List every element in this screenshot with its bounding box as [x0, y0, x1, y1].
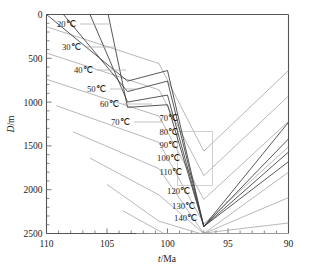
- y-axis-title: D/m: [6, 115, 16, 134]
- isotherm-label: 110℃: [159, 167, 182, 177]
- isotherm-label: 20℃: [57, 19, 76, 29]
- chart-svg: 20℃30℃40℃50℃60℃70℃ 70℃80℃90℃100℃110℃120℃…: [0, 0, 312, 270]
- isotherm-labels-right: 70℃80℃90℃100℃110℃120℃130℃140℃: [157, 113, 197, 223]
- isotherm-label: 30℃: [62, 42, 81, 52]
- isotherm-label: 70℃: [111, 117, 130, 127]
- y-tick-label: 2000: [24, 185, 43, 195]
- isotherm-label: 50℃: [87, 84, 106, 94]
- isotherm-label: 90℃: [159, 140, 178, 150]
- y-tick-label: 0: [38, 10, 43, 20]
- x-tick-label: 90: [284, 239, 294, 249]
- y-axis-tick-labels: 05001000150020002500: [24, 10, 43, 239]
- isotherm-label: 70℃: [159, 113, 178, 123]
- x-tick-label: 95: [223, 239, 233, 249]
- isotherm-label: 100℃: [157, 153, 180, 163]
- burial-curve: [108, 15, 288, 227]
- x-axis-title-unit: /Ma: [161, 254, 177, 264]
- y-axis-title-symbol: D: [6, 125, 16, 133]
- isotherm-label: 60℃: [100, 99, 119, 109]
- isotherm-label: 140℃: [174, 213, 197, 223]
- isotherm-label: 130℃: [172, 201, 195, 211]
- isotherm-label: 40℃: [74, 65, 93, 75]
- x-tick-label: 100: [160, 239, 175, 249]
- y-axis-title-unit: /m: [6, 115, 16, 126]
- plot-frame: [47, 15, 289, 234]
- x-axis-tick-labels: 1101051009590: [40, 239, 294, 249]
- y-tick-label: 500: [28, 54, 43, 64]
- x-tick-label: 110: [40, 239, 54, 249]
- isotherm-label: 80℃: [159, 127, 178, 137]
- isotherm-label: 120℃: [167, 186, 190, 196]
- burial-history-chart: 20℃30℃40℃50℃60℃70℃ 70℃80℃90℃100℃110℃120℃…: [0, 0, 312, 270]
- y-axis-ticks: [47, 15, 52, 234]
- y-tick-label: 1000: [24, 98, 43, 108]
- y-tick-label: 2500: [24, 229, 43, 239]
- y-tick-label: 1500: [24, 141, 43, 151]
- x-axis-ticks: [47, 229, 289, 234]
- x-tick-label: 105: [100, 239, 115, 249]
- isotherm-labels-left: 20℃30℃40℃50℃60℃70℃: [57, 19, 130, 127]
- x-axis-title: t/Ma: [158, 254, 177, 264]
